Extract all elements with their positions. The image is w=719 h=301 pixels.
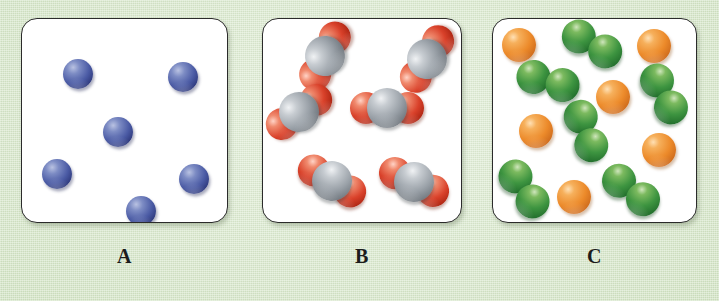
panel-b bbox=[262, 18, 462, 223]
orange-atom-sphere bbox=[519, 114, 553, 148]
blue-atom-sphere bbox=[103, 117, 133, 147]
panel-c-contents bbox=[493, 19, 696, 222]
orange-atom-sphere bbox=[642, 133, 676, 167]
orange-atom-sphere bbox=[502, 28, 536, 62]
blue-atom-sphere bbox=[42, 159, 72, 189]
blue-atom-sphere bbox=[168, 62, 198, 92]
gray-atom-sphere bbox=[367, 88, 407, 128]
orange-atom-sphere bbox=[637, 29, 671, 63]
orange-atom-sphere bbox=[596, 80, 630, 114]
panel-b-contents bbox=[263, 19, 461, 222]
blue-atom-sphere bbox=[63, 59, 93, 89]
molecular-diagram-figure: ABC bbox=[0, 0, 719, 301]
blue-atom-sphere bbox=[179, 164, 209, 194]
blue-atom-sphere bbox=[126, 196, 156, 223]
panel-c bbox=[492, 18, 697, 223]
orange-atom-sphere bbox=[557, 180, 591, 214]
panel-a bbox=[21, 18, 228, 223]
panel-label-c: C bbox=[492, 245, 697, 268]
panel-a-contents bbox=[22, 19, 227, 222]
panel-label-b: B bbox=[262, 245, 462, 268]
panel-label-a: A bbox=[21, 245, 228, 268]
